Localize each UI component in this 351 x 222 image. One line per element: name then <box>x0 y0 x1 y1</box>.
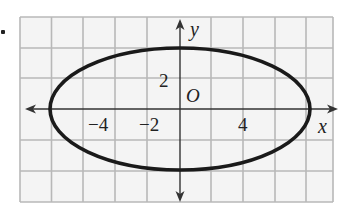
x-axis-label: x <box>317 115 327 137</box>
y-axis-label: y <box>188 18 199 41</box>
coordinate-plane: y x O 2 −2 −4 4 <box>0 0 351 222</box>
tick-label-x-4: 4 <box>238 114 248 135</box>
tick-label-y-neg2: −2 <box>139 114 159 135</box>
origin-label: O <box>186 85 200 106</box>
tick-label-y-2: 2 <box>159 70 169 91</box>
tick-label-x-neg4: −4 <box>88 114 109 135</box>
